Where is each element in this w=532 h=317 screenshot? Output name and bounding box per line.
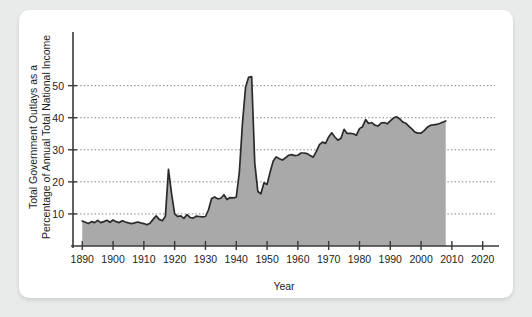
y-axis-title-line1: Total Government Outlays as a <box>27 65 39 209</box>
y-axis-title-line2: Percentage of Annual Total National Inco… <box>40 35 52 239</box>
y-tick-label-20: 20 <box>52 176 64 188</box>
y-tick-label-10: 10 <box>52 208 64 220</box>
y-tick-label-30: 30 <box>52 144 64 156</box>
x-tick-label-1900: 1900 <box>101 253 125 265</box>
x-axis-title: Year <box>273 280 295 292</box>
y-tick-label-40: 40 <box>52 112 64 124</box>
series-area <box>82 77 445 246</box>
x-tick-label-1980: 1980 <box>348 253 372 265</box>
area-chart: 1020304050 18901900191019201930194019501… <box>19 10 513 298</box>
x-tick-label-2010: 2010 <box>440 253 464 265</box>
y-axis-title: Total Government Outlays as a Percentage… <box>27 35 52 239</box>
figure-card: 1020304050 18901900191019201930194019501… <box>19 10 513 298</box>
chart-container: 1020304050 18901900191019201930194019501… <box>19 10 513 298</box>
x-tick-label-1910: 1910 <box>132 253 156 265</box>
y-tick-label-50: 50 <box>52 80 64 92</box>
y-axis: 1020304050 <box>52 32 77 248</box>
figure-root: 1020304050 18901900191019201930194019501… <box>0 0 532 317</box>
x-tick-label-1890: 1890 <box>71 253 95 265</box>
x-tick-label-1960: 1960 <box>286 253 310 265</box>
x-tick-label-1920: 1920 <box>163 253 187 265</box>
x-tick-label-2020: 2020 <box>471 253 495 265</box>
x-tick-label-1940: 1940 <box>225 253 249 265</box>
series-area-path <box>82 77 445 246</box>
x-tick-label-2000: 2000 <box>409 253 433 265</box>
x-tick-label-1930: 1930 <box>194 253 218 265</box>
x-tick-label-1990: 1990 <box>379 253 403 265</box>
x-tick-label-1970: 1970 <box>317 253 341 265</box>
x-tick-label-1950: 1950 <box>255 253 279 265</box>
